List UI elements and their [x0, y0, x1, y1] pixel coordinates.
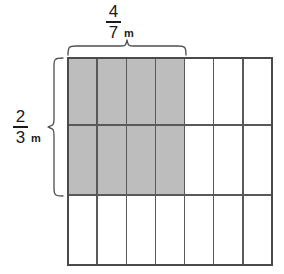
fraction-area-model-figure: 4 7 m 2 3 m [0, 0, 284, 274]
area-model-grid [0, 0, 284, 274]
